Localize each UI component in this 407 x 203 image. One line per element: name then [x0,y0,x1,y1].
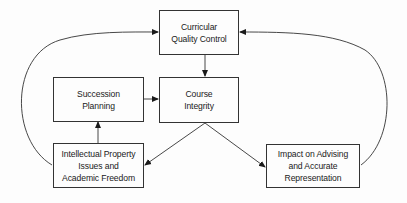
node-curricular-quality-control: Curricular Quality Control [159,10,239,55]
node-label-line: Academic Freedom [62,172,135,184]
node-label-line: and Accurate [289,160,338,172]
node-label-line: Course [185,88,212,100]
arrow-course-integrity-to-impact [205,123,265,167]
node-label-line: Curricular [181,21,217,33]
node-succession-planning: Succession Planning [53,77,144,122]
node-label-line: Issues and [78,160,119,172]
node-label-line: Impact on Advising [278,148,348,160]
node-impact-on-advising: Impact on Advising and Accurate Represen… [266,144,360,188]
arrow-course-integrity-to-ip [145,123,205,165]
flow-diagram: Curricular Quality Control Course Integr… [0,0,407,203]
node-label-line: Intellectual Property [62,148,136,160]
node-label-line: Integrity [184,100,214,112]
node-label-line: Planning [82,100,115,112]
node-intellectual-property: Intellectual Property Issues and Academi… [53,143,144,188]
node-label-line: Succession [77,88,120,100]
node-label-line: Quality Control [171,33,226,45]
node-course-integrity: Course Integrity [159,77,239,123]
node-label-line: Representation [285,172,342,184]
